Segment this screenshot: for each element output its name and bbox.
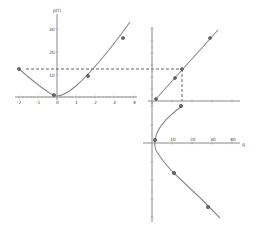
x-tick-label: 4 (133, 100, 136, 105)
data-marker (172, 171, 175, 174)
top-left-plot: -2 -1 0 1 2 3 4 10 20 30 p(t) (15, 8, 137, 105)
linear-curve (155, 30, 218, 100)
x-tick-label: 20 (190, 137, 196, 142)
x-tick-label: 3 (113, 100, 116, 105)
function-composition-diagram: -2 -1 0 1 2 3 4 10 20 30 p(t) (0, 0, 257, 232)
x-tick-label: 2 (94, 100, 97, 105)
x-tick-label: 30 (210, 137, 216, 142)
x-tick-label: 1 (75, 100, 78, 105)
data-marker (52, 93, 55, 96)
bottom-plot: 10 20 30 40 q (143, 102, 245, 222)
x-tick-label: -1 (36, 100, 41, 105)
y-tick-label: 20 (49, 50, 55, 55)
data-marker (174, 77, 177, 80)
x-tick-label: 40 (230, 137, 236, 142)
data-marker (179, 104, 182, 107)
data-marker (17, 67, 20, 70)
sideways-parabola-curve (155, 106, 220, 218)
x-tick-label: -2 (17, 100, 22, 105)
x-axis-label: q (242, 142, 245, 147)
top-right-plot (148, 27, 240, 104)
x-tick-label: 0 (56, 100, 59, 105)
data-marker (206, 205, 209, 208)
data-marker (209, 37, 212, 40)
data-marker (181, 68, 184, 71)
parabola-curve (19, 22, 130, 96)
data-marker (153, 138, 156, 141)
y-tick-label: 10 (49, 73, 55, 78)
data-marker (121, 36, 124, 39)
x-tick-label: 10 (170, 137, 176, 142)
data-marker (155, 98, 158, 101)
y-tick-label: 30 (49, 27, 55, 32)
y-axis-label: p(t) (53, 8, 61, 13)
data-marker (86, 74, 89, 77)
